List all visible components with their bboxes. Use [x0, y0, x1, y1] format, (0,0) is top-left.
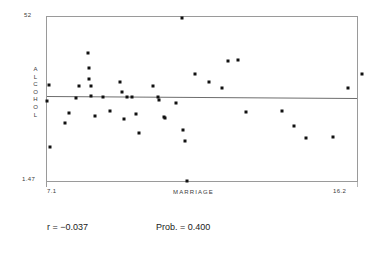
- scatter-point: [102, 95, 105, 98]
- y-axis-title-letter: L: [31, 112, 40, 120]
- probability-label: Prob. = 0.400: [156, 222, 210, 232]
- scatter-point: [236, 59, 239, 62]
- scatter-point: [109, 110, 112, 113]
- scatter-point: [90, 95, 93, 98]
- scatter-point: [78, 84, 81, 87]
- scatter-point: [361, 73, 364, 76]
- scatter-plot-figure: 52 1.47 A L C O H O L 7.1 16.2 MARRIAGE …: [0, 0, 387, 254]
- scatter-point: [158, 99, 161, 102]
- scatter-point: [94, 114, 97, 117]
- scatter-point: [184, 139, 187, 142]
- x-axis-title: MARRIAGE: [0, 189, 387, 195]
- y-axis-min-label: 1.47: [22, 176, 35, 182]
- y-axis-title-letter: H: [31, 96, 40, 104]
- scatter-point: [207, 80, 210, 83]
- scatter-point: [88, 77, 91, 80]
- scatter-point: [163, 116, 166, 119]
- scatter-point: [74, 96, 77, 99]
- scatter-point: [126, 96, 129, 99]
- scatter-point: [175, 102, 178, 105]
- statistics-row: r = −0.037 Prob. = 0.400: [0, 222, 387, 242]
- scatter-point: [135, 112, 138, 115]
- y-axis-title: A L C O H O L: [31, 66, 40, 119]
- scatter-point: [89, 84, 92, 87]
- scatter-point: [180, 16, 183, 19]
- plot-area: [46, 16, 358, 182]
- scatter-point: [304, 136, 307, 139]
- scatter-point: [245, 111, 248, 114]
- scatter-point: [292, 125, 295, 128]
- scatter-point: [63, 121, 66, 124]
- scatter-point: [347, 87, 350, 90]
- scatter-point: [221, 86, 224, 89]
- scatter-point: [122, 117, 125, 120]
- scatter-point: [131, 96, 134, 99]
- y-axis-title-letter: O: [31, 104, 40, 112]
- y-axis-title-letter: C: [31, 81, 40, 89]
- scatter-point: [137, 132, 140, 135]
- x-axis-tick-min: [46, 182, 47, 187]
- y-axis-title-letter: O: [31, 89, 40, 97]
- scatter-point: [194, 72, 197, 75]
- y-axis-title-letter: A: [31, 66, 40, 74]
- x-axis-tick-max: [357, 182, 358, 187]
- scatter-points-layer: [47, 17, 357, 181]
- correlation-coefficient-label: r = −0.037: [47, 222, 88, 232]
- scatter-point: [182, 128, 185, 131]
- scatter-point: [119, 81, 122, 84]
- scatter-point: [185, 180, 188, 183]
- scatter-point: [68, 112, 71, 115]
- scatter-point: [120, 91, 123, 94]
- scatter-point: [332, 136, 335, 139]
- scatter-point: [87, 66, 90, 69]
- scatter-point: [226, 60, 229, 63]
- scatter-point: [281, 110, 284, 113]
- y-axis-max-label: 52: [24, 12, 31, 18]
- scatter-point: [151, 85, 154, 88]
- scatter-point: [46, 100, 49, 103]
- y-axis-title-letter: L: [31, 74, 40, 82]
- scatter-point: [47, 83, 50, 86]
- scatter-point: [86, 51, 89, 54]
- scatter-point: [48, 146, 51, 149]
